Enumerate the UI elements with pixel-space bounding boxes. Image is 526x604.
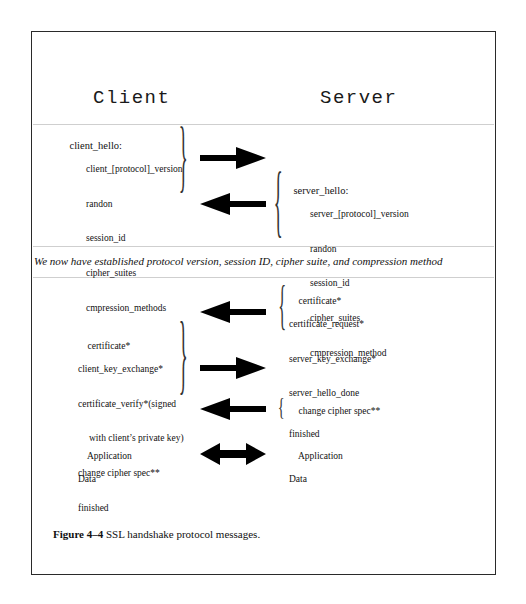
arrow-application-data <box>198 441 268 467</box>
client-hello-title: client_hello: <box>70 140 123 151</box>
client-hello-item: cipher_suites <box>60 268 183 280</box>
client-application-data-item: Application <box>87 451 132 461</box>
arrow-server-certificate <box>198 299 268 325</box>
arrow-server-finished <box>198 396 268 422</box>
client-column-header: Client <box>93 87 170 109</box>
client-certificate-item: certificate* <box>88 341 131 351</box>
note-text: We now have established protocol version… <box>34 254 496 268</box>
server-column-header: Server <box>320 87 397 109</box>
figure-caption-label: Figure 4–4 <box>53 528 103 540</box>
header-divider-rule <box>33 124 494 125</box>
server-application-data-block: Application Data <box>289 439 343 509</box>
client-certificate-item: certificate_verify*(signed <box>78 399 184 411</box>
server-hello-brace: { <box>274 161 283 241</box>
client-hello-item: client_[protocol]_version <box>60 164 183 176</box>
server-application-data-item: Application <box>298 451 343 461</box>
client-application-data-block: Application Data <box>78 439 132 509</box>
figure-frame: Client Server client_hello: client_[prot… <box>31 31 496 575</box>
arrow-client-key-exchange <box>198 355 268 381</box>
server-certificate-item: server_key_exchange* <box>289 354 376 366</box>
server-finished-item: change cipher spec** <box>299 406 381 416</box>
server-finished-brace: { <box>278 394 285 420</box>
client-certificate-item: client_key_exchange* <box>78 364 184 376</box>
arrow-server-to-client-hello <box>198 191 268 217</box>
column-header-row: Client Server <box>32 87 495 119</box>
figure-caption-text: SSL handshake protocol messages. <box>103 528 260 540</box>
server-hello-item: server_[protocol]_version <box>284 209 409 221</box>
client-hello-message-block: client_hello: client_[protocol]_version … <box>60 128 183 338</box>
client-hello-item: session_id <box>60 233 183 245</box>
arrow-client-to-server-hello <box>198 145 268 171</box>
client-certificate-brace: } <box>179 310 188 398</box>
client-hello-brace: } <box>179 116 188 196</box>
server-certificate-item: certificate* <box>299 296 342 306</box>
server-certificate-item: certificate_request* <box>289 319 376 331</box>
server-certificate-brace: { <box>278 276 286 332</box>
figure-caption: Figure 4–4 SSL handshake protocol messag… <box>53 528 260 540</box>
server-application-data-item: Data <box>289 474 343 486</box>
client-application-data-item: Data <box>78 474 132 486</box>
client-hello-item: cmpression_methods <box>60 303 183 315</box>
server-hello-title: server_hello: <box>294 185 349 196</box>
client-hello-item: randon <box>60 199 183 211</box>
